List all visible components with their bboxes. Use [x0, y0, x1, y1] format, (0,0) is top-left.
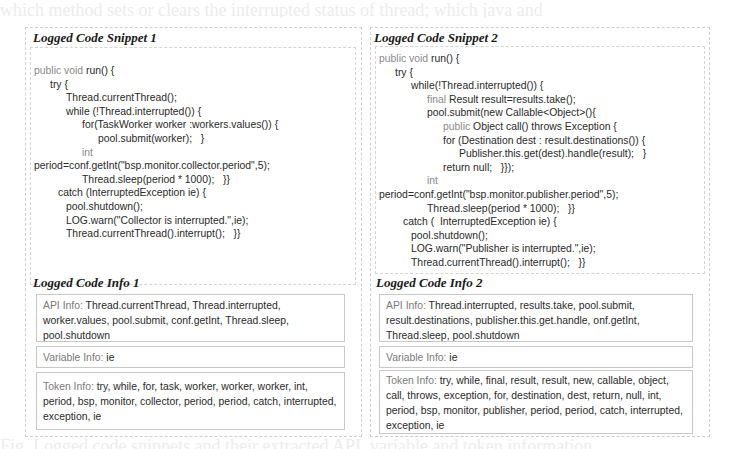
variable-info-value: ie — [106, 352, 114, 363]
code-text: LOG.warn("Collector is interrupted.",ie)… — [66, 215, 248, 226]
variable-info-label: Variable Info: — [386, 352, 449, 363]
api-info-label: API Info: — [386, 300, 429, 311]
code-text: pool.shutdown(); — [66, 201, 143, 212]
code-line: pool.submit(worker); } — [31, 132, 355, 146]
code-line: catch (InterruptedException ie) { — [31, 186, 355, 200]
code-line: return null; }}); — [376, 161, 704, 175]
info-title-1: Logged Code Info 1 — [33, 275, 140, 291]
code-line: while(!Thread.interrupted()) { — [376, 79, 704, 93]
code-text: pool.shutdown(); — [411, 230, 488, 241]
code-line: period=conf.getInt("bsp.monitor.publishe… — [376, 188, 704, 202]
background-text-bottom: Fig. Logged code snippets and their extr… — [0, 436, 732, 449]
code-text: period=conf.getInt("bsp.monitor.publishe… — [379, 189, 618, 200]
code-text: LOG.warn("Publisher is interrupted.",ie)… — [411, 243, 596, 254]
code-line: LOG.warn("Publisher is interrupted.",ie)… — [376, 242, 704, 256]
code-text: Thread.currentThread().interrupt(); }} — [411, 257, 585, 268]
token-info-label: Token Info: — [43, 381, 97, 392]
code-text: while(!Thread.interrupted()) { — [411, 80, 543, 91]
variable-info-label: Variable Info: — [43, 352, 106, 363]
code-line: Thread.currentThread(); — [31, 91, 355, 105]
code-line: public Object call() throws Exception { — [376, 120, 704, 134]
code-line: Thread.sleep(period * 1000); }} — [31, 173, 355, 187]
code-text: for (Destination dest : result.destinati… — [443, 135, 645, 146]
code-line: catch ( InterruptedException ie) { — [376, 215, 704, 229]
code-line: Thread.sleep(period * 1000); }} — [376, 202, 704, 216]
code-line: for(TaskWorker worker :workers.values())… — [31, 118, 355, 132]
code-line: Publisher.this.get(dest).handle(result);… — [376, 147, 704, 161]
token-info-1: Token Info: try, while, for, task, worke… — [36, 372, 345, 430]
code-line: public void run() { — [376, 52, 704, 66]
api-info-label: API Info: — [43, 300, 86, 311]
code-line: final Result result=results.take(); — [376, 93, 704, 107]
code-text: period=conf.getInt("bsp.monitor.collecto… — [34, 160, 270, 171]
variable-info-1: Variable Info: ie — [36, 346, 345, 368]
code-line: int — [376, 174, 704, 188]
code-line: public void run() { — [31, 64, 355, 78]
code-text: run() { — [431, 53, 459, 64]
code-text: try { — [395, 67, 413, 78]
api-info-1: API Info: Thread.currentThread, Thread.i… — [36, 294, 345, 342]
code-keyword: public void — [34, 65, 86, 76]
code-text: pool.submit(worker); } — [98, 133, 204, 144]
code-text: Object call() throws Exception { — [473, 121, 617, 132]
code-line: int — [31, 146, 355, 160]
code-text: catch (InterruptedException ie) { — [58, 187, 206, 198]
code-line: pool.shutdown(); — [376, 229, 704, 243]
info-title-2: Logged Code Info 2 — [376, 275, 483, 291]
code-snippet-1: public void run() {try {Thread.currentTh… — [30, 47, 356, 285]
code-text: run() { — [86, 65, 114, 76]
code-keyword: int — [82, 147, 93, 158]
code-text: Thread.sleep(period * 1000); }} — [427, 203, 575, 214]
code-text: while (!Thread.interrupted()) { — [66, 106, 201, 117]
code-text: Result result=results.take(); — [449, 94, 576, 105]
code-line: LOG.warn("Collector is interrupted.",ie)… — [31, 214, 355, 228]
token-info-label: Token Info: — [386, 375, 440, 386]
code-line: while (!Thread.interrupted()) { — [31, 105, 355, 119]
variable-info-2: Variable Info: ie — [379, 346, 693, 368]
code-line: period=conf.getInt("bsp.monitor.collecto… — [31, 159, 355, 173]
code-text: Thread.currentThread(); — [66, 92, 177, 103]
code-keyword: int — [427, 175, 438, 186]
code-line: Thread.currentThread().interrupt(); }} — [31, 227, 355, 241]
code-line: try { — [376, 66, 704, 80]
variable-info-value: ie — [449, 352, 457, 363]
code-keyword: public — [443, 121, 473, 132]
code-line: try { — [31, 78, 355, 92]
code-text: Thread.sleep(period * 1000); }} — [82, 174, 230, 185]
snippet-title-1: Logged Code Snippet 1 — [33, 30, 157, 46]
code-keyword: final — [427, 94, 449, 105]
api-info-2: API Info: Thread.interrupted, results.ta… — [379, 294, 693, 342]
code-line: Thread.currentThread().interrupt(); }} — [376, 256, 704, 270]
code-text: Thread.currentThread().interrupt(); }} — [66, 228, 240, 239]
token-info-2: Token Info: try, while, final, result, r… — [379, 370, 693, 434]
code-keyword: public void — [379, 53, 431, 64]
code-snippet-2: public void run() {try {while(!Thread.in… — [375, 46, 705, 274]
code-text: pool.submit(new Callable<Object>(){ — [427, 107, 596, 118]
code-text: return null; }}); — [443, 162, 514, 173]
code-text: catch ( InterruptedException ie) { — [403, 216, 557, 227]
code-line: pool.shutdown(); — [31, 200, 355, 214]
background-text-top: which method sets or clears the interrup… — [0, 0, 732, 18]
code-text: try { — [50, 79, 68, 90]
code-text: Publisher.this.get(dest).handle(result);… — [459, 148, 646, 159]
code-line: pool.submit(new Callable<Object>(){ — [376, 106, 704, 120]
code-line: for (Destination dest : result.destinati… — [376, 134, 704, 148]
snippet-title-2: Logged Code Snippet 2 — [374, 30, 498, 46]
code-text: for(TaskWorker worker :workers.values())… — [82, 119, 278, 130]
